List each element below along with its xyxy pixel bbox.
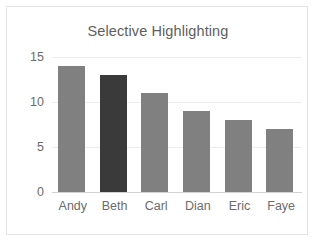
y-axis-tick-label: 0 [37, 185, 44, 199]
bar[interactable] [58, 66, 85, 192]
y-axis-tick-label: 10 [30, 95, 44, 109]
bar-slot [177, 57, 219, 192]
x-axis-tick-label: Dian [177, 199, 219, 213]
axis-line-zero [52, 192, 302, 193]
y-axis-tick-label: 5 [37, 140, 44, 154]
x-axis-tick-label: Faye [260, 199, 302, 213]
bar-slot [135, 57, 177, 192]
bar-slot [260, 57, 302, 192]
bar[interactable] [183, 111, 210, 192]
plot-area: 051015 AndyBethCarlDianEricFaye [52, 57, 302, 192]
bar[interactable] [141, 93, 168, 192]
bar[interactable] [266, 129, 293, 192]
y-axis-tick-label: 15 [30, 50, 44, 64]
bar-slot [94, 57, 136, 192]
chart-container: Selective Highlighting 051015 AndyBethCa… [6, 6, 308, 235]
x-axis-tick-label: Carl [135, 199, 177, 213]
x-axis-tick-label: Eric [219, 199, 261, 213]
chart-title: Selective Highlighting [7, 23, 309, 39]
x-axis-tick-label: Andy [52, 199, 94, 213]
bar-slot [52, 57, 94, 192]
bar-series [52, 57, 302, 192]
bar-slot [219, 57, 261, 192]
bar[interactable] [225, 120, 252, 192]
bar-highlighted[interactable] [100, 75, 127, 192]
x-axis-tick-label: Beth [94, 199, 136, 213]
